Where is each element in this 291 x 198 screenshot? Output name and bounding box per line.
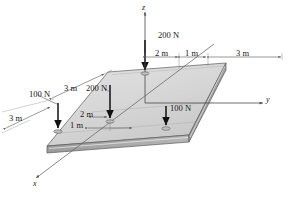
load-100n-right-label: 100 N <box>170 104 191 113</box>
dim-3m-upper-left-label: 3 m <box>64 84 77 93</box>
y-axis-label: y <box>266 96 270 104</box>
dim-1m-top-label: 1 m <box>185 49 198 58</box>
load-200n-near-label: 200 N <box>86 84 107 93</box>
load-100n-left-label: 100 N <box>29 90 50 99</box>
figure-canvas <box>0 0 291 198</box>
load-200n-far-label: 200 N <box>158 31 179 40</box>
plate-top-face <box>47 63 226 146</box>
x-axis-label: x <box>33 180 37 188</box>
dim-3m-top-right-label: 3 m <box>236 49 249 58</box>
statics-plate-figure: 200 N 200 N 100 N 100 N 2 m 1 m 3 m 3 m … <box>0 0 291 198</box>
dim-3m-lower-left-label: 3 m <box>9 114 22 123</box>
z-axis-label: z <box>142 4 145 12</box>
dim-2m-lower-label: 2 m <box>80 110 93 119</box>
dim-2m-top-label: 2 m <box>155 49 168 58</box>
dim-1m-lower-label: 1 m <box>70 121 83 130</box>
